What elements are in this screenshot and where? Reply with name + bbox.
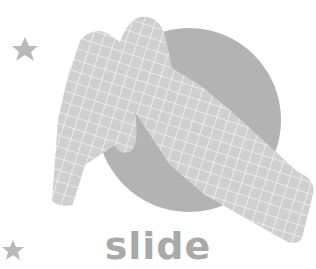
caption-label: slide	[0, 224, 316, 268]
star-icon	[12, 37, 38, 61]
